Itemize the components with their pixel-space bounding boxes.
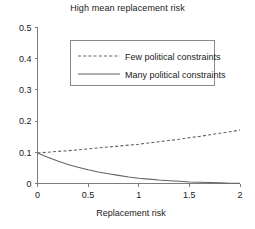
x-tick-label: 1.5 <box>183 190 196 200</box>
x-axis-ticks: 00.511.52 <box>35 184 243 200</box>
y-tick-label: 0.5 <box>19 23 32 33</box>
x-tick-label: 0 <box>35 190 40 200</box>
chart-figure: High mean replacement risk 00.10.20.30.4… <box>0 0 255 229</box>
x-tick-label: 1 <box>136 190 141 200</box>
y-tick-label: 0.4 <box>19 54 32 64</box>
x-tick-label: 0.5 <box>82 190 95 200</box>
legend-label-many: Many political constraints <box>125 70 226 80</box>
y-axis-ticks: 00.10.20.30.40.5 <box>19 23 38 189</box>
y-tick-label: 0.1 <box>19 148 32 158</box>
series-few-political-constraints <box>38 130 241 153</box>
y-tick-label: 0.2 <box>19 116 32 126</box>
y-tick-label: 0.3 <box>19 85 32 95</box>
chart-legend: Few political constraints Many political… <box>71 41 227 86</box>
x-tick-label: 2 <box>237 190 242 200</box>
x-axis-title: Replacement risk <box>96 208 166 218</box>
legend-label-few: Few political constraints <box>125 52 221 62</box>
series-many-political-constraints <box>38 153 241 183</box>
y-tick-label: 0 <box>26 179 31 189</box>
plot-area: 00.10.20.30.40.5 00.511.52 Few political… <box>0 0 255 229</box>
